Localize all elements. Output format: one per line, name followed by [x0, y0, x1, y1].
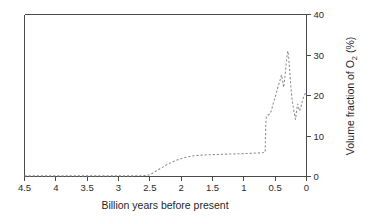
x-tick-label: 1 — [241, 182, 246, 193]
x-tick-label: 0 — [304, 182, 309, 193]
x-axis-label: Billion years before present — [101, 199, 228, 211]
y-tick-label: 40 — [314, 9, 325, 20]
x-tick-label: 2 — [179, 182, 184, 193]
y-tick-label: 10 — [314, 131, 325, 142]
y-axis-label-pre: Volume fraction of O — [344, 60, 356, 155]
y-tick-label: 30 — [314, 50, 325, 61]
y-tick-label: 0 — [314, 171, 319, 182]
x-tick-label: 3.5 — [81, 182, 94, 193]
oxygen-history-chart: 4.543.532.521.510.50 010203040 Billion y… — [0, 0, 365, 217]
x-tick-label: 4.5 — [18, 182, 31, 193]
x-tick-label: 4 — [53, 182, 58, 193]
x-tick-label: 2.5 — [143, 182, 156, 193]
x-tick-label: 3 — [116, 182, 121, 193]
x-tick-label: 1.5 — [206, 182, 219, 193]
chart-figure: 4.543.532.521.510.50 010203040 Billion y… — [0, 0, 365, 217]
y-tick-label: 20 — [314, 90, 325, 101]
x-tick-label: 0.5 — [269, 182, 282, 193]
y-axis-label-post: (%) — [344, 37, 356, 56]
